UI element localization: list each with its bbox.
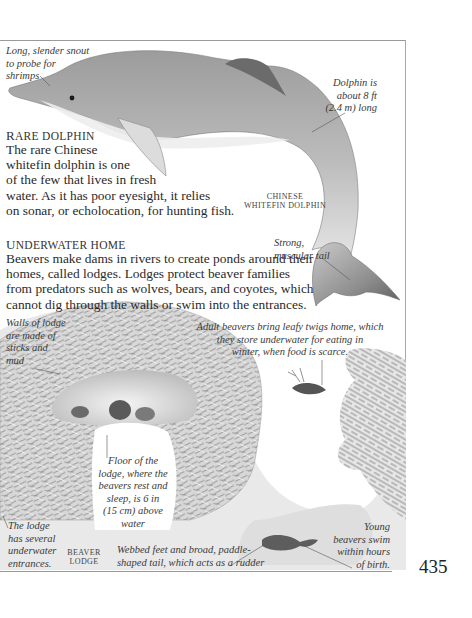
callout-line: has several xyxy=(8,533,56,546)
callout-line: entrances. xyxy=(8,558,56,571)
callout-line: within hours xyxy=(330,546,390,559)
callout-line: (2.4 m) long xyxy=(305,102,377,115)
beaver-with-twig xyxy=(288,360,326,394)
heading-rest: ARE DOLPHIN xyxy=(15,130,95,142)
callout-line: The lodge xyxy=(8,520,56,533)
beaver-body-text: Beavers make dams in rivers to create po… xyxy=(6,251,306,312)
callout-line: beavers swim xyxy=(330,534,390,547)
callout-young: Young beavers swim within hours of birth… xyxy=(330,521,390,571)
heading-initial: R xyxy=(6,128,15,143)
body-line: from predators such as wolves, bears, an… xyxy=(6,281,306,296)
dolphin-body-text: The rare Chinese whitefin dolphin is one… xyxy=(6,142,246,218)
callout-entrances: The lodge has several underwater entranc… xyxy=(8,520,56,570)
callout-line: Strong, xyxy=(274,237,330,250)
heading-initial: U xyxy=(6,237,16,252)
callout-length: Dolphin is about 8 ft (2.4 m) long xyxy=(305,77,377,115)
callout-twigs: Adult beavers bring leafy twigs home, wh… xyxy=(190,321,390,359)
callout-line: Long, slender snout xyxy=(6,45,89,58)
callout-line: lodge, where the xyxy=(94,468,172,481)
callout-line: Dolphin is xyxy=(305,77,377,90)
callout-line: of birth. xyxy=(330,559,390,572)
callout-line: sleep, is 6 in xyxy=(94,493,172,506)
body-line: whitefin dolphin is one xyxy=(6,157,246,172)
callout-line: (15 cm) above xyxy=(94,505,172,518)
body-line: Beavers make dams in rivers to create po… xyxy=(6,251,306,266)
callout-line: Young xyxy=(330,521,390,534)
label-line: lodge xyxy=(60,557,108,566)
callout-line: water xyxy=(94,518,172,531)
body-line: The rare Chinese xyxy=(6,142,246,157)
label-line: Chinese xyxy=(225,192,345,201)
callout-line: mud xyxy=(6,355,66,368)
callout-walls: Walls of lodge are made of sticks and mu… xyxy=(6,317,66,367)
body-line: homes, called lodges. Lodges protect bea… xyxy=(6,266,306,281)
callout-floor: Floor of the lodge, where the beavers re… xyxy=(94,455,172,530)
callout-line: winter, when food is scarce. xyxy=(190,346,390,359)
page-number: 435 xyxy=(419,556,448,578)
callout-line: Adult beavers bring leafy twigs home, wh… xyxy=(190,321,390,334)
callout-line: about 8 ft xyxy=(305,90,377,103)
heading-rest: NDERWATER HOME xyxy=(16,239,126,251)
callout-line: are made of xyxy=(6,330,66,343)
body-line: cannot dig through the walls or swim int… xyxy=(6,297,306,312)
label-line: whitefin dolphin xyxy=(225,201,345,210)
dolphin-illustration-label: Chinese whitefin dolphin xyxy=(225,192,345,210)
callout-feet: Webbed feet and broad, paddle- shaped ta… xyxy=(117,544,264,569)
callout-line: they store underwater for eating in xyxy=(190,334,390,347)
beaver-lodge-label: Beaver lodge xyxy=(60,548,108,566)
label-line: Beaver xyxy=(60,548,108,557)
body-line: on sonar, or echolocation, for hunting f… xyxy=(6,203,246,218)
callout-line: Floor of the xyxy=(94,455,172,468)
callout-line: shrimps xyxy=(6,70,89,83)
callout-line: shaped tail, which acts as a rudder xyxy=(117,557,264,570)
body-line: of the few that lives in fresh xyxy=(6,172,246,187)
callout-snout: Long, slender snout to probe for shrimps xyxy=(6,45,89,83)
callout-line: muscular tail xyxy=(274,250,330,263)
body-line: water. As it has poor eyesight, it relie… xyxy=(6,188,246,203)
callout-tail: Strong, muscular tail xyxy=(274,237,330,262)
callout-line: underwater xyxy=(8,545,56,558)
callout-line: Webbed feet and broad, paddle- xyxy=(117,544,264,557)
callout-line: sticks and xyxy=(6,342,66,355)
callout-line: Walls of lodge xyxy=(6,317,66,330)
callout-line: beavers rest and xyxy=(94,480,172,493)
callout-line: to probe for xyxy=(6,58,89,71)
